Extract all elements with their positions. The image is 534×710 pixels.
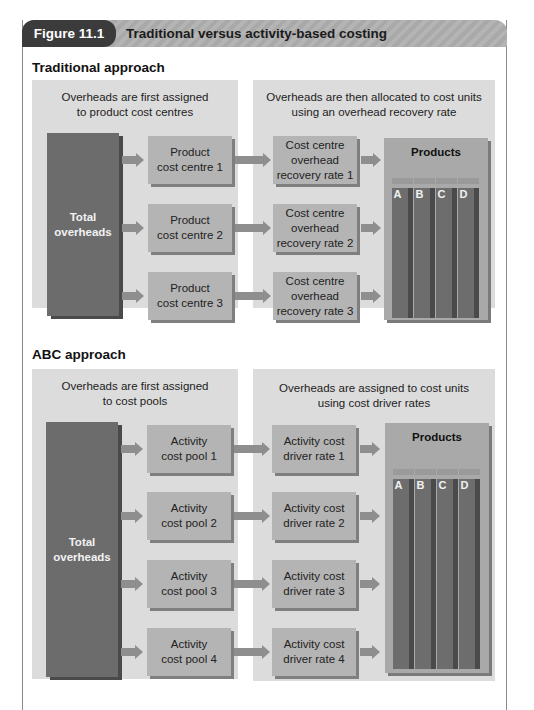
- arrow-icon: [361, 221, 381, 235]
- arrow-icon: [361, 289, 381, 303]
- arrow-icon: [234, 509, 270, 523]
- arrow-icon: [235, 289, 271, 303]
- abc-products-block: Products ABCD: [385, 423, 489, 673]
- product-bar: C: [436, 178, 457, 314]
- traditional-stage2-box: Cost centreoverheadrecovery rate 2: [273, 204, 357, 252]
- arrow-icon: [122, 153, 144, 167]
- traditional-right-caption: Overheads are then allocated to cost uni…: [253, 90, 495, 120]
- traditional-stage2-box: Cost centreoverheadrecovery rate 3: [273, 272, 357, 320]
- arrow-icon: [234, 577, 270, 591]
- abc-right-caption: Overheads are assigned to cost unitsusin…: [253, 381, 495, 411]
- arrow-icon: [235, 221, 271, 235]
- product-bar: B: [414, 178, 435, 314]
- abc-total-overheads-box: Totaloverheads: [46, 422, 118, 677]
- arrow-icon: [361, 153, 381, 167]
- traditional-heading: Traditional approach: [32, 60, 165, 75]
- abc-left-caption: Overheads are first assignedto cost pool…: [32, 379, 238, 409]
- traditional-left-caption: Overheads are first assignedto product c…: [32, 90, 238, 120]
- arrow-icon: [360, 509, 380, 523]
- traditional-stage2-box: Cost centreoverheadrecovery rate 1: [273, 136, 357, 184]
- figure-title: Traditional versus activity-based costin…: [126, 20, 387, 47]
- abc-stage2-box: Activity costdriver rate 2: [272, 492, 356, 540]
- traditional-stage1-box: Productcost centre 3: [148, 272, 232, 320]
- arrow-icon: [122, 289, 144, 303]
- arrow-icon: [121, 442, 143, 456]
- traditional-stage1-box: Productcost centre 1: [148, 136, 232, 184]
- traditional-stage1-box: Productcost centre 2: [148, 204, 232, 252]
- abc-stage2-box: Activity costdriver rate 4: [272, 628, 356, 676]
- abc-heading: ABC approach: [32, 347, 126, 362]
- products-block: Products ABCD: [384, 138, 488, 320]
- arrow-icon: [234, 645, 270, 659]
- product-bar: A: [393, 469, 414, 665]
- arrow-icon: [360, 645, 380, 659]
- arrow-icon: [121, 577, 143, 591]
- figure-number: Figure 11.1: [22, 20, 116, 47]
- product-bar: C: [437, 469, 458, 665]
- arrow-icon: [234, 442, 270, 456]
- product-bar: A: [392, 178, 413, 314]
- abc-products-label: Products: [385, 431, 489, 443]
- arrow-icon: [360, 442, 380, 456]
- abc-stage1-box: Activitycost pool 4: [147, 628, 231, 676]
- arrow-icon: [122, 221, 144, 235]
- abc-stage2-box: Activity costdriver rate 1: [272, 425, 356, 473]
- product-bar: D: [458, 178, 479, 314]
- abc-stage1-box: Activitycost pool 3: [147, 560, 231, 608]
- abc-stage2-box: Activity costdriver rate 3: [272, 560, 356, 608]
- products-label: Products: [384, 146, 488, 158]
- product-bar: D: [459, 469, 480, 665]
- abc-stage1-box: Activitycost pool 2: [147, 492, 231, 540]
- arrow-icon: [360, 577, 380, 591]
- total-overheads-box: Totaloverheads: [47, 133, 119, 316]
- arrow-icon: [121, 509, 143, 523]
- arrow-icon: [235, 153, 271, 167]
- product-bar: B: [415, 469, 436, 665]
- arrow-icon: [121, 645, 143, 659]
- abc-stage1-box: Activitycost pool 1: [147, 425, 231, 473]
